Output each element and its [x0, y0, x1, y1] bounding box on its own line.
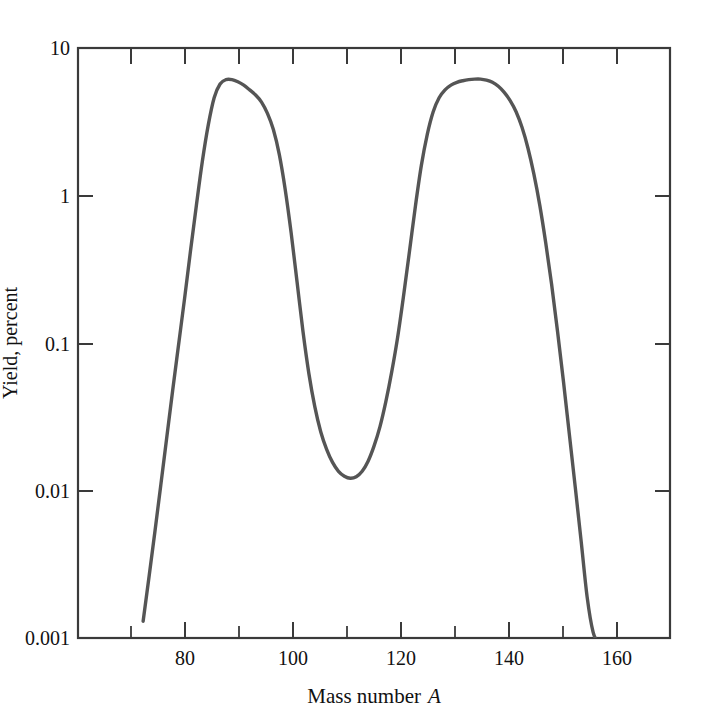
plot-canvas: [0, 0, 708, 724]
y-major-ticks-right: [655, 196, 670, 491]
y-tick-label-10: 10: [6, 38, 70, 58]
yield-curve-path: [143, 79, 599, 645]
x-minor-ticks-bottom: [131, 626, 563, 638]
y-axis-title: Yield, percent: [0, 287, 22, 399]
yield-curve: [143, 79, 599, 645]
y-tick-label-0-001: 0.001: [6, 628, 70, 648]
y-major-ticks-left: [78, 196, 93, 491]
x-tick-label-140: 140: [494, 648, 524, 668]
fission-yield-chart: 10 1 0.1 0.01 0.001 80 100 120 140 160 Y…: [0, 0, 708, 724]
x-tick-label-120: 120: [386, 648, 416, 668]
y-tick-label-1: 1: [6, 186, 70, 206]
x-major-ticks-bottom: [185, 622, 617, 638]
x-axis-title-variable: A: [428, 684, 441, 708]
x-ticks-top: [131, 48, 617, 64]
x-tick-label-100: 100: [278, 648, 308, 668]
x-tick-label-80: 80: [175, 648, 195, 668]
x-axis-title-main: Mass number: [307, 684, 421, 708]
y-tick-label-0-01: 0.01: [6, 481, 70, 501]
x-tick-label-160: 160: [602, 648, 632, 668]
x-axis-title: Mass numberA: [307, 684, 441, 709]
